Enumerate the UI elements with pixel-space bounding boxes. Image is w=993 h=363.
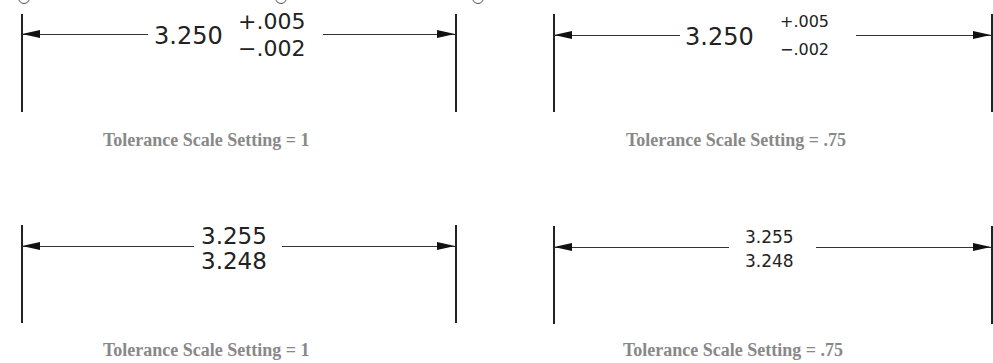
dimension-line-left (554, 35, 680, 36)
cropped-text-fragment (472, 0, 484, 4)
upper-deviation: +.005 (238, 11, 305, 33)
extension-line-right (455, 14, 457, 112)
arrowhead-left-icon (554, 31, 572, 39)
arrowhead-left-icon (554, 243, 572, 251)
extension-line-left (553, 14, 555, 112)
dimension-line-right (816, 247, 991, 248)
extension-line-left (553, 226, 555, 324)
cropped-text-fragment (275, 0, 287, 4)
arrowhead-left-icon (22, 242, 40, 250)
lower-limit: 3.248 (745, 253, 794, 270)
dimension-line-right (323, 34, 455, 35)
extension-line-right (991, 226, 993, 324)
caption: Tolerance Scale Setting = 1 (103, 130, 310, 151)
extension-line-right (455, 225, 457, 323)
caption: Tolerance Scale Setting = .75 (626, 130, 846, 151)
lower-deviation: −.002 (238, 38, 305, 60)
upper-limit: 3.255 (745, 229, 794, 246)
nominal-dimension: 3.250 (685, 25, 754, 49)
lower-deviation: −.002 (780, 42, 829, 58)
dimension-line-left (22, 34, 148, 35)
extension-line-left (21, 14, 23, 112)
dimension-line-right (856, 35, 991, 36)
arrowhead-right-icon (973, 243, 991, 251)
dimension-line-left (554, 247, 729, 248)
extension-line-left (21, 225, 23, 323)
caption: Tolerance Scale Setting = .75 (623, 340, 843, 361)
dimension-line-right (282, 246, 455, 247)
cropped-text-fragment (18, 0, 30, 4)
lower-limit: 3.248 (201, 250, 267, 273)
arrowhead-left-icon (22, 30, 40, 38)
extension-line-right (991, 14, 993, 112)
nominal-dimension: 3.250 (154, 24, 223, 48)
arrowhead-right-icon (437, 30, 455, 38)
upper-deviation: +.005 (780, 14, 829, 30)
caption: Tolerance Scale Setting = 1 (103, 340, 310, 361)
arrowhead-right-icon (973, 31, 991, 39)
arrowhead-right-icon (437, 242, 455, 250)
upper-limit: 3.255 (201, 225, 267, 248)
dimension-line-left (22, 246, 194, 247)
